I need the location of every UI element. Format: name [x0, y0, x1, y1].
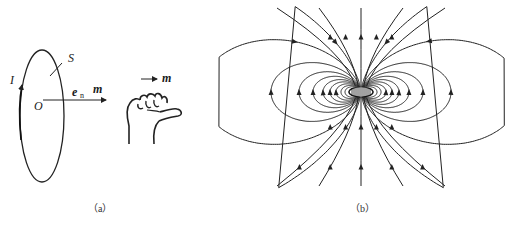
field-arrow	[343, 34, 348, 40]
field-arrow	[359, 124, 364, 130]
right-hand-icon: m	[127, 71, 181, 144]
label-current: I	[9, 73, 15, 87]
field-arrow	[328, 124, 333, 130]
field-arrow	[383, 89, 388, 95]
current-loop	[20, 50, 64, 182]
field-arrow	[320, 89, 325, 95]
field-arrow	[268, 89, 273, 95]
field-arrow	[297, 164, 302, 170]
field-arrow	[333, 89, 338, 95]
label-normal-vector-sub: n	[80, 91, 84, 100]
panel-b	[219, 7, 504, 188]
label-normal-vector: e	[72, 85, 78, 99]
field-line	[279, 7, 361, 188]
field-arrow	[389, 89, 394, 95]
field-arrow	[425, 38, 432, 44]
field-line	[271, 63, 360, 122]
caption-a: （a）	[88, 203, 112, 214]
caption-b: （b）	[350, 203, 375, 214]
label-origin: O	[34, 99, 43, 113]
field-arrow	[374, 34, 379, 40]
field-line	[361, 7, 443, 188]
field-arrow	[389, 124, 394, 130]
field-arrow	[296, 89, 301, 95]
label-moment: m	[93, 82, 102, 96]
diagram-canvas: I S O e n m m （a） （b）	[0, 0, 508, 226]
field-arrow	[406, 89, 411, 95]
label-moment-hand: m	[162, 71, 171, 85]
field-arrow	[359, 34, 364, 40]
field-arrow	[420, 164, 425, 170]
field-arrow	[310, 89, 315, 95]
current-coil	[349, 87, 373, 97]
field-arrow	[448, 89, 453, 95]
field-arrow	[327, 89, 332, 95]
panel-a: I S O e n m m （a）	[9, 50, 181, 214]
field-arrow	[420, 89, 425, 95]
field-line	[362, 40, 505, 145]
field-line	[362, 63, 451, 122]
field-line	[219, 40, 361, 145]
field-arrow	[396, 89, 401, 95]
field-arrow	[359, 164, 364, 170]
label-surface: S	[68, 51, 74, 65]
